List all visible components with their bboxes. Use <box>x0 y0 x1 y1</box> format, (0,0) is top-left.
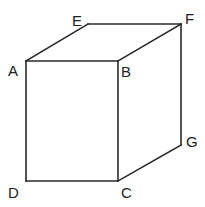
vertex-labels: A B C D E F G <box>8 10 198 201</box>
edge-ae <box>26 24 88 61</box>
cube-diagram: A B C D E F G <box>0 0 205 207</box>
vertex-label-a: A <box>8 62 18 79</box>
vertex-label-c: C <box>121 184 132 201</box>
cube-edges <box>26 24 181 181</box>
vertex-label-g: G <box>186 133 198 150</box>
vertex-label-d: D <box>8 184 19 201</box>
vertex-label-b: B <box>121 63 131 80</box>
vertex-label-f: F <box>185 10 194 27</box>
vertex-label-e: E <box>72 12 82 29</box>
edge-fb <box>118 24 181 61</box>
edge-gc <box>118 145 181 181</box>
